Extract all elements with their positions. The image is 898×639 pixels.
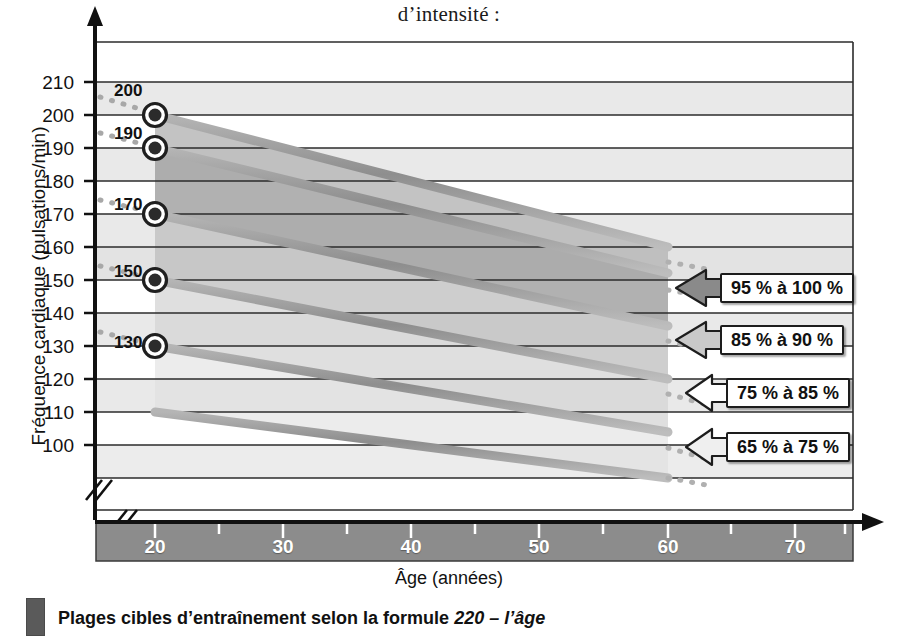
x-tick-label: 50 — [516, 537, 562, 556]
point-value-label: 170 — [114, 196, 142, 213]
y-tick-label: 110 — [22, 403, 74, 422]
x-tick-label: 70 — [772, 537, 818, 556]
callout-box-75-85[interactable]: 75 % à 85 % — [726, 378, 850, 408]
data-marker — [144, 269, 167, 292]
point-value-label: 150 — [114, 263, 142, 280]
x-tick-label: 20 — [132, 537, 178, 556]
y-tick-label: 100 — [22, 436, 74, 455]
x-axis-title: Âge (années) — [0, 568, 898, 589]
y-tick-label: 180 — [22, 172, 74, 191]
chart-root: d’intensité : Fréquence cardiaque (pulsa… — [0, 0, 898, 639]
y-tick-label: 150 — [22, 271, 74, 290]
y-tick-label: 170 — [22, 205, 74, 224]
point-value-label: 190 — [114, 125, 142, 142]
data-marker — [144, 137, 167, 160]
x-axis-arrow-icon — [862, 513, 884, 531]
caption: Plages cibles d’entraînement selon la fo… — [58, 608, 545, 629]
x-tick-label: 40 — [388, 537, 434, 556]
caption-swatch — [26, 598, 45, 636]
y-tick-label: 200 — [22, 106, 74, 125]
data-marker — [144, 203, 167, 226]
data-marker — [144, 104, 167, 127]
y-tick-label: 190 — [22, 139, 74, 158]
x-tick-label: 30 — [260, 537, 306, 556]
y-tick-label: 140 — [22, 304, 74, 323]
point-value-label: 200 — [114, 82, 142, 99]
point-value-label: 130 — [114, 334, 142, 351]
callout-box-65-75[interactable]: 65 % à 75 % — [726, 432, 850, 462]
callout-box-85-90[interactable]: 85 % à 90 % — [720, 325, 844, 355]
data-marker — [144, 335, 167, 358]
caption-text: Plages cibles d’entraînement selon la fo… — [58, 608, 454, 628]
callout-box-95-100[interactable]: 95 % à 100 % — [720, 273, 854, 303]
y-axis-arrow-icon — [87, 6, 103, 26]
y-tick-label: 120 — [22, 370, 74, 389]
y-tick-label: 210 — [22, 73, 74, 92]
y-tick-label: 160 — [22, 238, 74, 257]
caption-formula: 220 – l’âge — [454, 608, 545, 628]
x-tick-label: 60 — [645, 537, 691, 556]
y-tick-label: 130 — [22, 337, 74, 356]
